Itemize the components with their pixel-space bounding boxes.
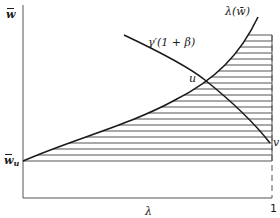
intersection-u-label: u bbox=[189, 73, 196, 84]
gamma-beta-label: γ′(1 + β) bbox=[148, 37, 195, 48]
lambda-w-label: λ(w̄) bbox=[225, 6, 250, 17]
x-axis-end-tick: 1 bbox=[270, 203, 277, 214]
x-axis-label: λ bbox=[145, 206, 152, 217]
y-axis-label: w bbox=[6, 9, 15, 20]
w-u-label: wu bbox=[4, 155, 19, 167]
endpoint-v-label: v bbox=[273, 137, 279, 148]
hatched-region bbox=[23, 35, 272, 155]
diagram-canvas bbox=[0, 0, 280, 218]
